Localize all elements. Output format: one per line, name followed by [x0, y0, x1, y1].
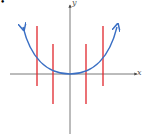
parabola-diagram: [0, 0, 143, 136]
x-axis-label: x: [137, 68, 142, 77]
y-axis-label: y: [72, 0, 77, 7]
